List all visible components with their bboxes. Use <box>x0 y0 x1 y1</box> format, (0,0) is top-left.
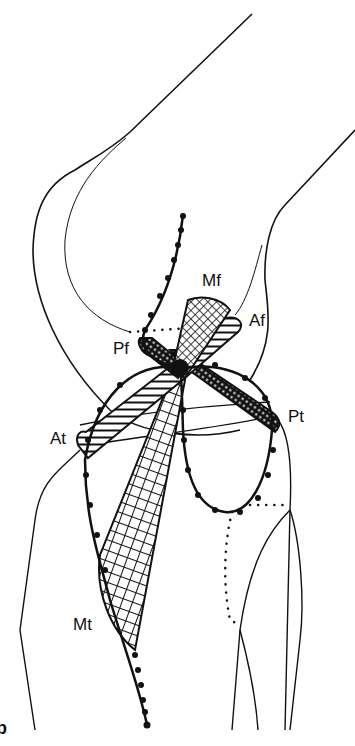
label-mt: Mt <box>73 616 92 633</box>
label-mf: Mf <box>202 272 221 289</box>
knee-ligament-diagram: Mf Af Pf At Pt Mt b <box>0 0 355 746</box>
panel-label: b <box>0 719 7 737</box>
diagram-canvas <box>0 0 355 746</box>
ligament-bands <box>77 297 279 650</box>
label-pt: Pt <box>288 408 304 425</box>
label-at: At <box>50 430 66 447</box>
label-pf: Pf <box>113 340 129 357</box>
label-af: Af <box>249 312 265 329</box>
bead-dots <box>83 213 276 729</box>
